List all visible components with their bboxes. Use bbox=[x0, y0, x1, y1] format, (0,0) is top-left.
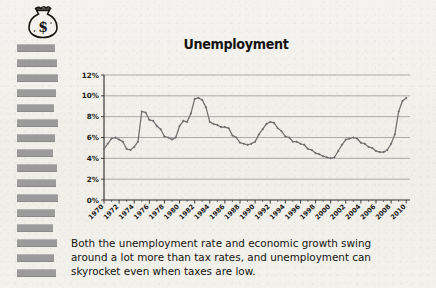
x-axis-tick-label: 2010 bbox=[389, 202, 408, 221]
y-axis-tick-label: 0% bbox=[87, 196, 99, 205]
x-axis-tick-label: 1984 bbox=[193, 202, 212, 221]
sidebar-redacted-bar bbox=[17, 149, 53, 157]
x-axis-tick-label: 2002 bbox=[329, 202, 348, 221]
sidebar-redacted-bar bbox=[17, 104, 54, 112]
y-axis-tick-label: 12% bbox=[82, 71, 99, 80]
unemployment-line-chart: 0%2%4%6%8%10%12% 19701972197419761978198… bbox=[66, 0, 436, 232]
x-axis-tick-label: 1988 bbox=[223, 202, 242, 221]
sidebar-redacted-bar bbox=[17, 239, 57, 247]
y-axis-tick-label: 2% bbox=[87, 175, 99, 184]
x-axis-tick-label: 1976 bbox=[132, 202, 151, 221]
caption: Both the unemployment rate and economic … bbox=[71, 236, 371, 279]
sidebar-redacted-bar bbox=[17, 59, 57, 67]
sidebar-redacted-bar bbox=[17, 119, 58, 127]
unemployment-series-markers bbox=[103, 97, 408, 160]
x-axis-tick-label: 1978 bbox=[147, 202, 166, 221]
sidebar-redacted-bar bbox=[17, 89, 56, 97]
sidebar-redacted-bar bbox=[17, 254, 54, 262]
x-axis-tick-label: 2000 bbox=[313, 202, 332, 221]
x-axis-tick-label: 1994 bbox=[268, 202, 287, 221]
x-axis-tick-label: 1982 bbox=[177, 202, 196, 221]
sidebar-redacted-bar bbox=[17, 134, 55, 142]
x-axis-tick-label: 2006 bbox=[359, 202, 378, 221]
svg-text:$: $ bbox=[38, 19, 48, 35]
x-axis-tick-label: 2004 bbox=[344, 202, 363, 221]
money-bag-icon: $ bbox=[22, 3, 64, 41]
caption-line-1: Both the unemployment rate and economic … bbox=[71, 236, 371, 250]
y-axis-tick-labels: 0%2%4%6%8%10%12% bbox=[82, 71, 99, 205]
x-axis-tick-labels: 1970197219741976197819801982198419861988… bbox=[87, 202, 408, 221]
x-axis-tick-label: 1970 bbox=[87, 202, 106, 221]
y-axis-tick-label: 8% bbox=[87, 112, 99, 121]
sidebar-redacted-bar bbox=[17, 269, 56, 277]
x-axis-tick-label: 1990 bbox=[238, 202, 257, 221]
chart-gridlines bbox=[101, 75, 410, 200]
x-axis-tick-label: 1998 bbox=[298, 202, 317, 221]
x-axis-tick-label: 1972 bbox=[102, 202, 121, 221]
y-axis-tick-label: 10% bbox=[82, 91, 99, 100]
x-axis-tick-label: 1980 bbox=[162, 202, 181, 221]
sidebar-redacted-bar bbox=[17, 209, 55, 217]
series-path bbox=[104, 98, 406, 158]
unemployment-series-line bbox=[104, 98, 406, 158]
x-axis-tick-label: 1986 bbox=[208, 202, 227, 221]
sidebar-redacted-bar bbox=[17, 164, 57, 172]
x-axis-tick-label: 2008 bbox=[374, 202, 393, 221]
y-axis-tick-label: 4% bbox=[87, 154, 99, 163]
caption-line-3: skyrocket even when taxes are low. bbox=[71, 264, 371, 278]
x-axis-tick-label: 1996 bbox=[283, 202, 302, 221]
chart-panel: Unemployment 0%2%4%6%8%10%12% 1970197219… bbox=[66, 0, 436, 232]
sidebar-redacted-bar bbox=[17, 44, 55, 52]
sidebar-redacted-bar bbox=[17, 224, 53, 232]
caption-line-2: around a lot more than tax rates, and un… bbox=[71, 250, 371, 264]
sidebar-redacted-bar bbox=[17, 179, 56, 187]
x-axis-tick-label: 1974 bbox=[117, 202, 136, 221]
sidebar: $ bbox=[0, 0, 66, 288]
x-axis-tick-label: 1992 bbox=[253, 202, 272, 221]
y-axis-tick-label: 6% bbox=[87, 133, 99, 142]
sidebar-redacted-bar bbox=[17, 194, 58, 202]
sidebar-redacted-bar bbox=[17, 74, 58, 82]
